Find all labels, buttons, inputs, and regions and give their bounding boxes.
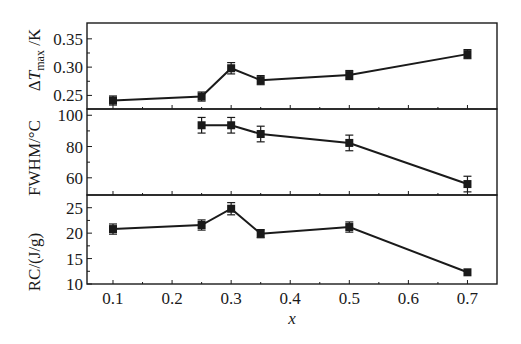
x-axis-title: x	[287, 309, 296, 328]
panel-top: 0.250.300.35	[53, 23, 497, 109]
square-marker	[198, 93, 206, 101]
plot-area: 0.250.300.35608010010152025	[53, 23, 497, 294]
x-tick-label: 0.5	[339, 289, 360, 308]
panel-frame	[87, 195, 497, 284]
square-marker	[257, 76, 265, 84]
square-marker	[257, 130, 265, 138]
stacked-line-chart: 0.250.300.35608010010152025 x ΔTmax /KFW…	[0, 0, 521, 344]
y-axis-title-top: ΔTmax /K	[25, 28, 47, 91]
y-tick-label: 0.30	[53, 58, 83, 77]
square-marker	[198, 121, 206, 129]
square-marker	[198, 221, 206, 229]
y-tick-label: 0.25	[53, 86, 83, 105]
y-tick-label: 60	[66, 169, 83, 188]
square-marker	[257, 230, 265, 238]
y-axis-title-middle: FWHM/°C	[25, 120, 44, 196]
square-marker	[463, 268, 471, 276]
square-marker	[345, 71, 353, 79]
y-tick-label: 15	[66, 250, 83, 269]
x-tick-label: 0.7	[457, 289, 479, 308]
square-marker	[227, 121, 235, 129]
square-marker	[463, 180, 471, 188]
panel-frame	[87, 23, 497, 109]
x-tick-label: 0.3	[221, 289, 242, 308]
y-tick-label: 25	[66, 199, 83, 218]
y-axis-title-bottom: RC/(J/g)	[25, 233, 44, 292]
panel-frame	[87, 109, 497, 195]
square-marker	[463, 50, 471, 58]
x-tick-label: 0.6	[398, 289, 419, 308]
y-tick-label: 10	[66, 275, 83, 294]
series-line	[202, 125, 468, 184]
y-tick-label: 100	[58, 106, 84, 125]
square-marker	[227, 205, 235, 213]
square-marker	[109, 97, 117, 105]
series-line	[113, 54, 467, 100]
y-tick-label: 20	[66, 224, 83, 243]
square-marker	[109, 225, 117, 233]
square-marker	[345, 139, 353, 147]
square-marker	[227, 64, 235, 72]
series-line	[113, 209, 467, 273]
axis-labels: x ΔTmax /KFWHM/°CRC/(J/g)0.10.20.30.40.5…	[25, 28, 479, 328]
y-tick-label: 0.35	[53, 30, 83, 49]
x-tick-label: 0.4	[280, 289, 302, 308]
panel-middle: 6080100	[58, 106, 498, 195]
square-marker	[345, 223, 353, 231]
y-tick-label: 80	[66, 138, 83, 157]
x-tick-label: 0.2	[161, 289, 182, 308]
x-tick-label: 0.1	[102, 289, 123, 308]
panel-bottom: 10152025	[66, 195, 497, 294]
